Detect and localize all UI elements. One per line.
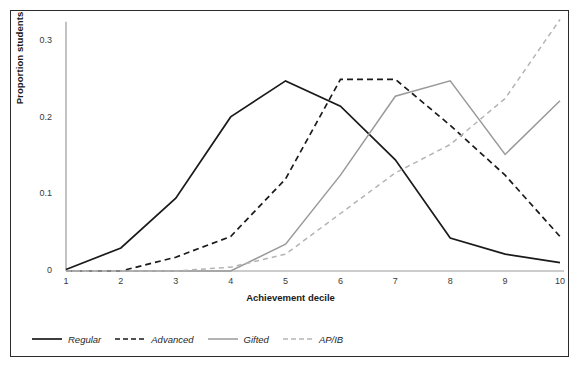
legend-item-ap-ib[interactable]: AP/IB [283, 334, 343, 345]
series-line-advanced [66, 79, 560, 271]
legend-item-regular[interactable]: Regular [32, 334, 101, 345]
legend-item-gifted[interactable]: Gifted [208, 334, 269, 345]
legend-item-advanced[interactable]: Advanced [115, 334, 193, 345]
legend-key-icon [208, 334, 238, 344]
line-chart-plot [10, 10, 571, 357]
series-line-ap-ib [66, 20, 560, 271]
legend-key-icon [283, 334, 313, 344]
series-line-gifted [66, 81, 560, 271]
legend-label: Advanced [151, 334, 193, 345]
legend-key-icon [32, 334, 62, 344]
legend-label: Regular [68, 334, 101, 345]
legend-label: Gifted [244, 334, 269, 345]
chart-legend: RegularAdvancedGiftedAP/IB [32, 330, 362, 348]
series-line-regular [66, 81, 560, 270]
legend-key-icon [115, 334, 145, 344]
legend-label: AP/IB [319, 334, 343, 345]
figure-panel: Proportion students Achievement decile 0… [0, 0, 581, 368]
